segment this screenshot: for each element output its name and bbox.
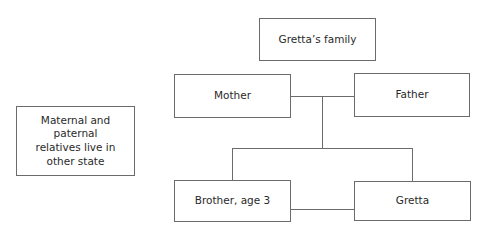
gretta-label: Gretta (396, 194, 429, 208)
title-box: Gretta’s family (259, 18, 376, 61)
brother-label: Brother, age 3 (195, 194, 271, 208)
side-note-box: Maternal and paternal relatives live in … (16, 106, 135, 176)
gretta-drop-line (412, 148, 413, 181)
father-label: Father (395, 88, 428, 102)
sibling-bar (232, 148, 413, 149)
side-note-label: Maternal and paternal relatives live in … (31, 114, 120, 169)
brother-drop-line (232, 148, 233, 180)
mother-label: Mother (214, 89, 251, 103)
gretta-node: Gretta (354, 181, 471, 221)
sibling-link-line (291, 209, 354, 210)
descent-line (322, 96, 323, 149)
title-label: Gretta’s family (279, 33, 357, 47)
mother-node: Mother (174, 74, 291, 118)
father-node: Father (354, 73, 470, 117)
brother-node: Brother, age 3 (174, 180, 291, 222)
